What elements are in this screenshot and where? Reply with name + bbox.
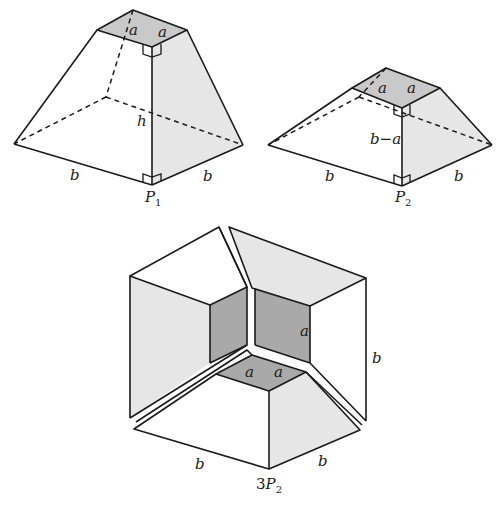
p2-edge bbox=[268, 145, 402, 186]
p2-edge bbox=[268, 88, 352, 145]
p2-label-a1: a bbox=[378, 79, 387, 97]
p2-name: P2 bbox=[394, 188, 411, 208]
p2-label-b1: b bbox=[325, 167, 335, 185]
frustum-p1: a a h b b P1 bbox=[14, 10, 243, 208]
asm-label-a-wall: a bbox=[300, 322, 309, 340]
p1-label-b1: b bbox=[70, 166, 80, 184]
asm-label-b1: b bbox=[195, 455, 205, 473]
p1-label-a2: a bbox=[158, 23, 167, 41]
p2-hidden-edge bbox=[268, 97, 359, 145]
p1-label-b2: b bbox=[203, 167, 213, 185]
p2-label-a2: a bbox=[407, 79, 416, 97]
p1-label-h: h bbox=[137, 112, 147, 130]
asm-name: 3P2 bbox=[256, 475, 282, 495]
p1-label-a1: a bbox=[129, 21, 138, 39]
asm-label-b-height: b bbox=[372, 349, 382, 367]
p1-edge bbox=[14, 144, 152, 185]
p1-edge bbox=[14, 30, 97, 144]
asm-label-a2: a bbox=[274, 363, 283, 381]
asm-label-a1: a bbox=[245, 363, 254, 381]
p1-name: P1 bbox=[144, 188, 161, 208]
p2-label-b2: b bbox=[454, 167, 464, 185]
geometry-figure: a a h b b P1 a a b−a b b P2 bbox=[0, 0, 504, 515]
p2-label-height: b−a bbox=[370, 130, 401, 148]
p2-right-face bbox=[402, 88, 492, 186]
p1-hidden-edge bbox=[14, 97, 106, 144]
assembly-3p2: a a a b b b 3P2 bbox=[130, 227, 382, 495]
asm-label-b2: b bbox=[318, 452, 328, 470]
frustum-p2: a a b−a b b P2 bbox=[268, 68, 492, 208]
